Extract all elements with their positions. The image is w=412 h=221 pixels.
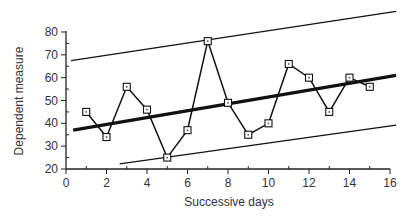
y-tick-label: 30 [45,139,59,153]
data-point-center [288,63,290,65]
y-axis-title: Dependent measure [12,46,26,155]
x-tick-label: 8 [225,176,232,190]
data-point-center [247,134,249,136]
y-tick-label: 20 [45,162,59,176]
upper-limit-line [71,11,396,60]
x-tick-label: 4 [144,176,151,190]
data-point-center [166,157,168,159]
x-tick-label: 6 [184,176,191,190]
data-point-center [85,111,87,113]
axes: 203040506070800246810121416 [45,25,397,190]
x-tick-label: 16 [383,176,397,190]
data-point-center [227,102,229,104]
x-tick-label: 12 [302,176,316,190]
data-point-center [126,86,128,88]
data-markers [83,38,374,161]
y-tick-label: 70 [45,48,59,62]
trend-line-line [73,75,396,130]
x-tick-label: 14 [343,176,357,190]
x-tick-label: 0 [63,176,70,190]
x-axis-title: Successive days [184,195,273,209]
y-tick-label: 60 [45,71,59,85]
chart: 203040506070800246810121416 Successive d… [0,0,412,221]
data-point-center [308,77,310,79]
data-point-center [106,136,108,138]
x-tick-label: 10 [262,176,276,190]
y-tick-label: 80 [45,25,59,39]
y-tick-label: 40 [45,116,59,130]
data-point-center [187,129,189,131]
data-point-center [268,123,270,125]
x-tick-label: 2 [103,176,110,190]
y-tick-label: 50 [45,94,59,108]
plot-lines [71,11,396,164]
data-point-center [349,77,351,79]
data-point-center [369,86,371,88]
data-point-center [207,40,209,42]
data-point-center [146,109,148,111]
data-point-center [328,111,330,113]
